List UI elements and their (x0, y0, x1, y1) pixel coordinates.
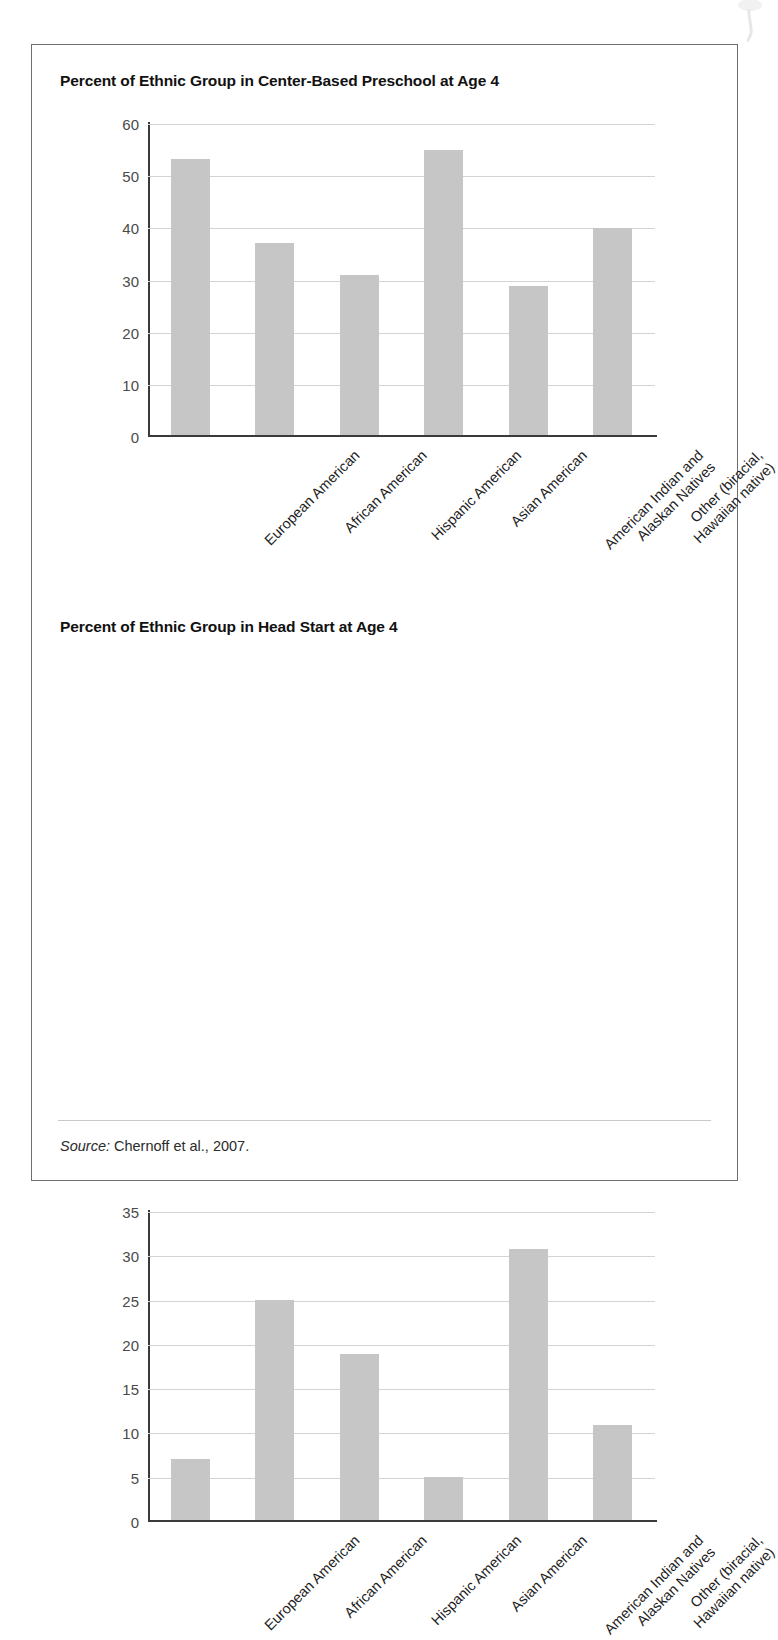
gridline (148, 1478, 655, 1479)
chart-title-headstart: Percent of Ethnic Group in Head Start at… (60, 618, 398, 636)
y-axis-tick-label: 50 (122, 168, 139, 185)
y-axis-tick-label: 0 (131, 429, 139, 446)
source-label: Source: (60, 1138, 110, 1154)
x-axis-labels-preschool: European AmericanAfrican AmericanHispani… (148, 439, 655, 589)
gridline (148, 1256, 655, 1257)
source-divider (58, 1120, 711, 1121)
y-axis-tick-label: 15 (122, 1381, 139, 1398)
gridline (148, 124, 655, 125)
bar (424, 150, 463, 436)
y-axis-tick-label: 35 (122, 1204, 139, 1221)
y-axis-tick-label: 20 (122, 1336, 139, 1353)
y-axis-tick-label: 0 (131, 1514, 139, 1531)
source-citation: Chernoff et al., 2007. (110, 1138, 249, 1154)
bar (593, 1425, 632, 1521)
bar (171, 1459, 210, 1520)
x-axis-tick-label-line: Hispanic American (428, 447, 524, 543)
y-axis-tick-label: 25 (122, 1292, 139, 1309)
bar (340, 1354, 379, 1521)
gridline (148, 281, 655, 282)
y-axis-tick-label: 30 (122, 1248, 139, 1265)
bar (509, 1249, 548, 1521)
x-axis-tick-label-line: European American (262, 447, 363, 548)
y-axis-tick-label: 20 (122, 324, 139, 341)
bar (424, 1477, 463, 1520)
x-axis-tick-label-line: European American (262, 1532, 363, 1633)
y-axis-tick-label: 60 (122, 116, 139, 133)
bar (171, 159, 210, 435)
y-axis-tick-label: 10 (122, 376, 139, 393)
x-axis-tick-label-line: American Indian and (601, 1532, 706, 1637)
gridline (148, 385, 655, 386)
x-axis-line (148, 1520, 657, 1522)
x-axis-tick-label: Hispanic American (428, 447, 525, 544)
plot-area-preschool: 0102030405060 (148, 122, 655, 437)
gridline (148, 1301, 655, 1302)
scan-artifact (735, 0, 765, 42)
x-axis-tick-label: European American (262, 447, 364, 549)
plot-area-headstart: 05101520253035 (148, 1210, 655, 1522)
bar (340, 275, 379, 435)
x-axis-tick-label: European American (262, 1532, 364, 1634)
y-axis-tick-label: 30 (122, 272, 139, 289)
gridline (148, 1433, 655, 1434)
gridline (148, 1389, 655, 1390)
chart-title-preschool: Percent of Ethnic Group in Center-Based … (60, 72, 499, 90)
y-axis-tick-label: 40 (122, 220, 139, 237)
bar (255, 1300, 294, 1521)
y-axis-tick-label: 5 (131, 1469, 139, 1486)
bar (509, 286, 548, 436)
x-axis-labels-headstart: European AmericanAfrican AmericanHispani… (148, 1524, 655, 1640)
x-axis-tick-label-line: Hispanic American (428, 1532, 524, 1628)
gridline (148, 1212, 655, 1213)
x-axis-tick-label: Hispanic American (428, 1532, 525, 1629)
gridline (148, 176, 655, 177)
bar (255, 243, 294, 435)
y-axis-line (148, 122, 150, 437)
x-axis-line (148, 435, 657, 437)
gridline (148, 1345, 655, 1346)
bar (593, 228, 632, 435)
figure-frame: Percent of Ethnic Group in Center-Based … (31, 44, 738, 1181)
x-axis-tick-label-line: American Indian and (601, 447, 706, 552)
y-axis-tick-label: 10 (122, 1425, 139, 1442)
source-note: Source: Chernoff et al., 2007. (60, 1138, 249, 1154)
gridline (148, 333, 655, 334)
gridline (148, 228, 655, 229)
